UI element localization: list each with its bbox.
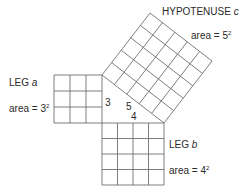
leg-a-label-text: LEG	[9, 77, 29, 88]
leg-b-area-prefix: area =	[169, 165, 200, 176]
side-b-number: 4	[131, 111, 137, 123]
hypotenuse-label-text: HYPOTENUSE	[162, 6, 231, 17]
hypotenuse-area: area = 52	[191, 30, 231, 42]
leg-a-square	[54, 75, 102, 123]
leg-b-label-text: LEG	[169, 139, 189, 150]
side-a-number: 3	[105, 97, 111, 109]
leg-b-square	[102, 123, 164, 185]
leg-b-area: area = 42	[169, 165, 209, 177]
hypotenuse-label: HYPOTENUSE c	[162, 6, 239, 18]
hypotenuse-var: c	[234, 6, 239, 17]
leg-b-var: b	[192, 139, 198, 150]
hypotenuse-area-prefix: area =	[191, 30, 222, 41]
leg-a-area: area = 32	[9, 103, 49, 115]
leg-a-area-prefix: area =	[9, 103, 40, 114]
leg-a-label: LEG a	[9, 77, 37, 89]
leg-b-area-exp: 2	[206, 165, 209, 171]
hypotenuse-area-exp: 2	[228, 30, 231, 36]
leg-a-area-exp: 2	[46, 103, 49, 109]
leg-b-label: LEG b	[169, 139, 197, 151]
leg-a-var: a	[32, 77, 38, 88]
